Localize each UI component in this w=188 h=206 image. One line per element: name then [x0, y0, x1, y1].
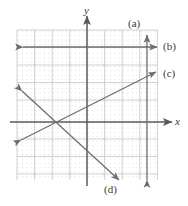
x-axis-label: x — [175, 116, 180, 127]
y-axis-label: y — [84, 5, 89, 16]
line-label-c: (c) — [163, 68, 175, 79]
graph-figure: (a) (b) (c) (d) y x — [0, 0, 188, 206]
line-label-d: (d) — [104, 184, 117, 195]
line-label-a: (a) — [128, 18, 140, 29]
line-label-b: (b) — [163, 41, 176, 52]
coordinate-plane-svg — [0, 0, 188, 206]
